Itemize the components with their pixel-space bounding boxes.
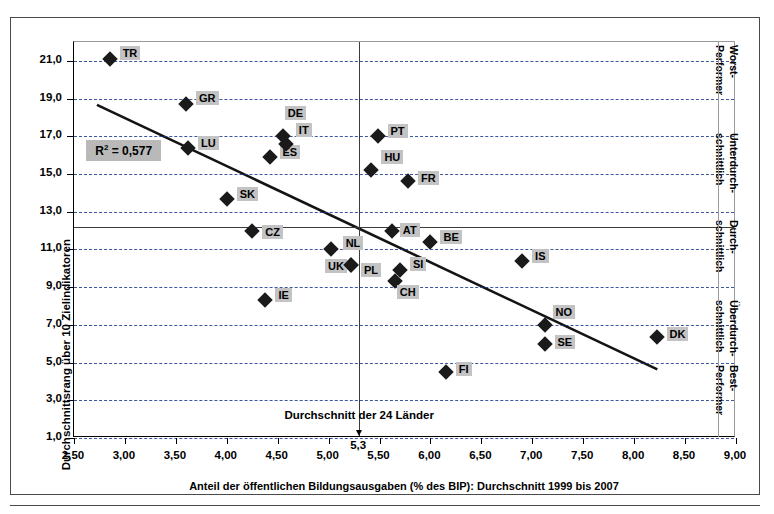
- data-point-fi: [438, 364, 454, 380]
- right-band-label-primary: Durch-: [728, 220, 740, 254]
- point-label-it: IT: [296, 123, 312, 137]
- point-label-ie: IE: [275, 288, 291, 302]
- point-label-no: NO: [553, 305, 576, 319]
- right-band-label-primary: Überdurch-: [728, 300, 740, 357]
- right-band-label-secondary: schnittlich: [714, 133, 726, 186]
- x-tick-label: 5,50: [367, 449, 389, 461]
- point-label-se: SE: [555, 335, 576, 349]
- point-label-be: BE: [440, 230, 461, 244]
- y-gridline: [74, 325, 734, 326]
- data-point-se: [537, 336, 553, 352]
- data-point-es: [262, 149, 278, 165]
- x-tick-label: 8,50: [673, 449, 695, 461]
- x-tick-label: 7,50: [571, 449, 593, 461]
- average-countries-note: Durchschnitt der 24 Länder: [284, 409, 434, 421]
- y-gridline: [74, 363, 734, 364]
- y-tick-mark: [67, 61, 74, 62]
- x-tick-mark: [481, 438, 482, 444]
- x-tick-mark: [634, 438, 635, 444]
- y-tick-label: 9,0: [46, 279, 62, 291]
- point-label-ch: CH: [397, 285, 419, 299]
- y-gridline: [74, 61, 734, 62]
- point-label-is: IS: [532, 249, 548, 263]
- right-band-label-secondary: schnittlich: [714, 300, 726, 353]
- point-label-sk: SK: [237, 187, 258, 201]
- point-label-nl: NL: [343, 236, 364, 250]
- point-label-cz: CZ: [262, 225, 283, 239]
- y-gridline: [74, 174, 734, 175]
- y-tick-label: 15,0: [40, 166, 62, 178]
- data-point-is: [514, 253, 530, 269]
- point-label-gr: GR: [196, 91, 219, 105]
- data-point-tr: [102, 51, 118, 67]
- y-tick-label: 11,0: [40, 241, 62, 253]
- y-tick-label: 17,0: [40, 128, 62, 140]
- point-label-dk: DK: [667, 327, 689, 341]
- right-band-divider: [718, 41, 719, 437]
- y-tick-label: 21,0: [40, 53, 62, 65]
- y-tick-mark: [67, 212, 74, 213]
- point-label-lu: LU: [198, 136, 219, 150]
- y-tick-mark: [67, 400, 74, 401]
- y-gridline: [74, 400, 734, 401]
- r-squared-annotation: R2 = 0,577: [86, 140, 161, 161]
- right-band-label-secondary: schnittlich: [714, 220, 726, 273]
- plot-inner: TRGRLUSKCZESIEDEITNLUKPLHUPTATCHSIFRBEFI…: [74, 42, 734, 436]
- x-tick-label: 3,00: [113, 449, 135, 461]
- x-tick-label: 6,00: [418, 449, 440, 461]
- data-point-fr: [400, 173, 416, 189]
- point-label-si: SI: [410, 257, 426, 271]
- y-gridline: [74, 99, 734, 100]
- y-tick-label: 13,0: [40, 204, 62, 216]
- y-tick-mark: [67, 99, 74, 100]
- x-tick-label: 4,00: [215, 449, 237, 461]
- y-tick-label: 7,0: [46, 317, 62, 329]
- x-tick-label: 5,00: [316, 449, 338, 461]
- right-band-label-secondary: Performer: [714, 45, 726, 95]
- x-tick-mark: [430, 438, 431, 444]
- y-tick-label: 19,0: [40, 91, 62, 103]
- chart-page: TRGRLUSKCZESIEDEITNLUKPLHUPTATCHSIFRBEFI…: [0, 0, 774, 514]
- x-tick-label: 4,50: [265, 449, 287, 461]
- point-label-fi: FI: [456, 362, 472, 376]
- x-tick-mark: [736, 438, 737, 444]
- y-tick-mark: [67, 136, 74, 137]
- data-point-nl: [323, 242, 339, 258]
- point-label-tr: TR: [120, 46, 141, 60]
- y-tick-label: 5,0: [46, 355, 62, 367]
- point-label-at: AT: [400, 223, 420, 237]
- average-arrow-icon: [356, 430, 362, 436]
- figure-bottom-rule: [10, 505, 760, 506]
- y-tick-mark: [67, 287, 74, 288]
- point-label-de: DE: [285, 106, 306, 120]
- y-tick-mark: [67, 325, 74, 326]
- x-tick-mark: [74, 438, 75, 444]
- x-tick-mark: [380, 438, 381, 444]
- x-tick-label: 6,50: [469, 449, 491, 461]
- x-axis-title: Anteil der öffentlichen Bildungsausgaben…: [74, 480, 734, 492]
- data-point-at: [384, 223, 400, 239]
- data-point-cz: [244, 223, 260, 239]
- x-tick-label: 8,00: [622, 449, 644, 461]
- y-tick-mark: [67, 438, 74, 439]
- data-point-hu: [364, 162, 380, 178]
- point-label-pt: PT: [388, 124, 408, 138]
- right-band-label-secondary: Performer: [714, 365, 726, 415]
- x-tick-mark: [329, 438, 330, 444]
- right-band-label-primary: Worst-: [728, 45, 740, 78]
- point-label-pl: PL: [361, 263, 381, 277]
- y-gridline: [74, 249, 734, 250]
- data-point-dk: [649, 329, 665, 345]
- x-tick-mark: [532, 438, 533, 444]
- right-band-label-primary: Unterdurch-: [728, 133, 740, 193]
- trendline: [74, 42, 734, 436]
- average-value-label: 5,3: [350, 439, 366, 451]
- x-tick-label: 9,00: [724, 449, 746, 461]
- x-tick-mark: [685, 438, 686, 444]
- y-gridline: [74, 212, 734, 213]
- data-point-sk: [219, 191, 235, 207]
- y-tick-label: 1,0: [46, 430, 62, 442]
- x-tick-label: 7,00: [520, 449, 542, 461]
- x-tick-mark: [227, 438, 228, 444]
- x-tick-mark: [278, 438, 279, 444]
